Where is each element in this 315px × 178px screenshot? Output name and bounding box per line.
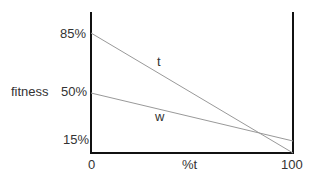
x-axis-title: %t (182, 158, 197, 171)
series-t-line (91, 33, 293, 153)
y-tick-15: 15% (63, 133, 89, 146)
x-tick-0: 0 (88, 158, 95, 171)
series-w-label: w (155, 110, 164, 123)
y-tick-50: 50% (61, 85, 87, 98)
series-t-label: t (157, 55, 161, 68)
y-tick-85: 85% (60, 27, 86, 40)
y-axis-title: fitness (11, 85, 49, 98)
series-w-line (91, 93, 293, 141)
x-tick-100: 100 (281, 158, 303, 171)
